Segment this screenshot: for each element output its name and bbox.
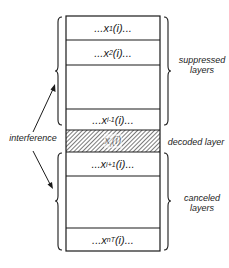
layer-xi-minus-1-prefix: ...x: [92, 114, 107, 126]
layer-xi-minus-1-suffix: (i)...: [115, 114, 134, 126]
layer-x1-prefix: ...x: [94, 22, 109, 34]
layer-x2-suffix: (i)...: [113, 47, 132, 59]
layer-x1: ...x1(i)...: [66, 16, 160, 40]
layer-xnt-suffix: (i)...: [115, 234, 134, 246]
layer-xi-plus-1-suffix: (i)...: [116, 158, 135, 170]
interference-label: interference: [8, 133, 58, 143]
right-brace-upper: [164, 17, 171, 125]
interference-arrow-up: [33, 84, 56, 132]
layer-x2: ...x2(i)...: [66, 40, 160, 65]
right-brace-lower: [164, 153, 171, 250]
layer-xnt-sub: nT: [107, 236, 115, 243]
layer-xi-decoded: xi(i): [66, 130, 160, 152]
decoded-label-text: decoded layer: [168, 137, 225, 147]
decoded-layer-label: decoded layer: [163, 137, 229, 147]
interference-label-text: interference: [9, 133, 57, 143]
layer-xi-minus-1: ...xi-1(i)...: [66, 109, 160, 130]
canceled-label-line1: canceled: [177, 193, 227, 203]
layer-xi-suffix: (i): [112, 134, 122, 146]
suppressed-layers-label: suppressed layers: [177, 55, 227, 75]
canceled-layers-label: canceled layers: [177, 193, 227, 213]
layer-xi-plus-1: ...xi+1(i)...: [66, 152, 160, 176]
suppressed-label-line2: layers: [177, 65, 227, 75]
layer-xi-text: xi(i): [104, 134, 123, 148]
suppressed-label-line1: suppressed: [177, 55, 227, 65]
layer-xi-plus-1-prefix: ...x: [91, 158, 106, 170]
layer-xi-plus-1-sub: i+1: [106, 161, 116, 168]
layer-xnt-prefix: ...x: [92, 234, 107, 246]
layer-xi-minus-1-sub: i-1: [107, 116, 115, 123]
layer-x2-prefix: ...x: [94, 47, 109, 59]
layer-x1-suffix: (i)...: [113, 22, 132, 34]
layer-xnt: ...xnT(i)...: [66, 228, 160, 251]
left-brace-lower: [55, 153, 62, 250]
left-brace-upper: [55, 17, 62, 125]
interference-arrow-down: [33, 151, 53, 189]
canceled-label-line2: layers: [177, 203, 227, 213]
